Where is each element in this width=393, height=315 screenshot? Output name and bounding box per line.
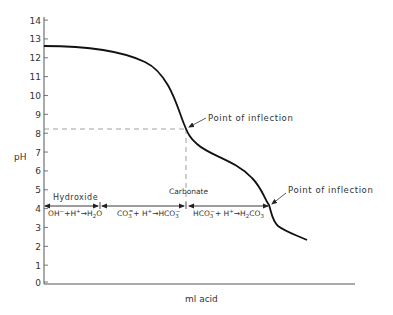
reaction-hydroxide: OH−+H+→H2O — [48, 208, 102, 219]
y-axis: 01234567891011121314 — [30, 16, 48, 288]
y-tick-label: 12 — [30, 53, 41, 63]
y-tick-label: 6 — [35, 166, 41, 176]
x-axis-label: ml acid — [185, 294, 218, 304]
y-tick-label: 13 — [30, 34, 41, 44]
inflection-label-2: Point of inflection — [288, 185, 373, 195]
reaction-carbonate: CO3=+ H+→HCO3− — [117, 208, 181, 219]
y-tick-label: 3 — [35, 223, 41, 233]
y-tick-label: 2 — [35, 242, 41, 252]
y-tick-label: 9 — [35, 110, 41, 120]
reference-lines — [44, 129, 186, 202]
y-tick-label: 5 — [35, 185, 41, 195]
y-tick-label: 8 — [35, 129, 41, 139]
y-tick-label: 11 — [30, 72, 41, 82]
region-label-hydroxide: Hydroxide — [53, 193, 98, 202]
y-tick-label: 1 — [35, 261, 41, 271]
y-axis-label: pH — [14, 152, 26, 162]
inflection-annotation-2: Point of inflection — [272, 185, 373, 204]
titration-chart: 01234567891011121314 pH ml acid Point of… — [0, 0, 393, 315]
y-tick-label: 10 — [30, 91, 42, 101]
inflection-annotation-1: Point of inflection — [189, 113, 293, 127]
y-tick-label: 14 — [30, 16, 42, 26]
y-tick-label: 0 — [35, 278, 41, 288]
y-tick-label: 4 — [35, 204, 41, 214]
inflection-label-1: Point of inflection — [208, 113, 293, 123]
region-label-carbonate: Carbonate — [169, 187, 209, 196]
reaction-bicarbonate: HCO3−+ H+→H2CO3 — [193, 208, 264, 219]
y-tick-label: 7 — [35, 148, 41, 158]
